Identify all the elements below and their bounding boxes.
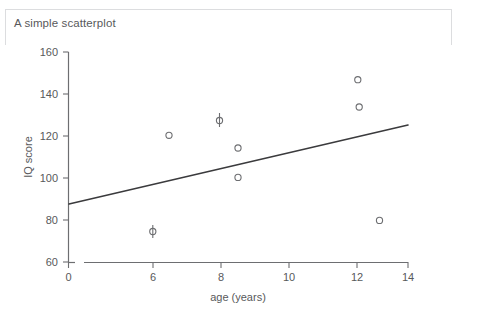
- y-tick-label-140: 140: [40, 88, 58, 100]
- x-tick-label-14: 14: [402, 271, 414, 283]
- data-point-marker[interactable]: [150, 225, 156, 238]
- x-tick-label-10: 10: [283, 271, 295, 283]
- y-axis-title: IQ score: [22, 136, 34, 178]
- x-axis-title: age (years): [210, 291, 266, 303]
- x-tick-label-8: 8: [218, 271, 224, 283]
- x-tick-label-0: 0: [65, 271, 71, 283]
- y-tick-label-160: 160: [40, 46, 58, 58]
- y-tick-label-80: 80: [46, 214, 58, 226]
- regression-line: [69, 125, 408, 204]
- data-point-marker[interactable]: [235, 174, 241, 180]
- data-point-marker[interactable]: [235, 145, 241, 151]
- data-point-marker[interactable]: [216, 113, 222, 127]
- data-point-marker[interactable]: [355, 77, 361, 83]
- x-tick-label-6: 6: [150, 271, 156, 283]
- scatterplot-chart: 160 140 120 100 80 60 IQ score 0 6 8 10 …: [0, 0, 478, 311]
- y-axis: 160 140 120 100 80 60 IQ score: [22, 46, 69, 268]
- x-tick-label-12: 12: [351, 271, 363, 283]
- data-point-marker[interactable]: [356, 104, 362, 110]
- data-point-marker[interactable]: [166, 132, 172, 138]
- y-tick-label-60: 60: [46, 256, 58, 268]
- x-axis: 0 6 8 10 12 14 age (years): [65, 262, 414, 303]
- data-point-marker[interactable]: [376, 217, 382, 223]
- y-tick-label-120: 120: [40, 130, 58, 142]
- y-tick-label-100: 100: [40, 172, 58, 184]
